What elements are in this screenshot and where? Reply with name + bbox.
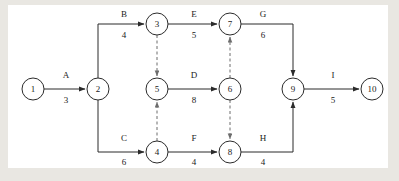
activity-label-B: B (121, 9, 127, 19)
node-label-1: 1 (31, 84, 36, 94)
activity-duration-F: 4 (192, 157, 197, 167)
activity-label-G: G (260, 9, 267, 19)
node-label-3: 3 (155, 19, 160, 29)
diagram-page: 1 2 3 4 5 6 7 8 9 10 A 3 B 4 C 6 D 8 E 5… (0, 0, 399, 181)
activity-duration-A: 3 (64, 95, 69, 105)
activity-label-C: C (121, 133, 127, 143)
activity-label-H: H (260, 133, 267, 143)
activity-duration-D: 8 (192, 95, 197, 105)
node-label-9: 9 (291, 84, 296, 94)
activity-duration-E: 5 (192, 30, 197, 40)
activity-label-E: E (191, 9, 197, 19)
edge-G-7-to-9 (241, 24, 293, 76)
network-diagram-svg: 1 2 3 4 5 6 7 8 9 10 A 3 B 4 C 6 D 8 E 5… (0, 0, 399, 181)
node-label-4: 4 (155, 147, 160, 157)
activity-duration-H: 4 (261, 157, 266, 167)
activity-label-F: F (191, 133, 196, 143)
activity-duration-C: 6 (122, 157, 127, 167)
activity-duration-I: 5 (331, 95, 336, 105)
edge-H-8-to-9 (241, 102, 293, 152)
node-label-7: 7 (228, 19, 233, 29)
node-layer: 1 2 3 4 5 6 7 8 9 10 (22, 13, 383, 163)
activity-label-A: A (63, 70, 70, 80)
node-label-2: 2 (96, 84, 101, 94)
node-label-10: 10 (368, 84, 378, 94)
edge-C-2-to-4 (98, 100, 144, 152)
activity-label-I: I (332, 70, 335, 80)
activity-label-D: D (191, 70, 198, 80)
activity-duration-G: 6 (261, 30, 266, 40)
node-label-6: 6 (228, 84, 233, 94)
activity-duration-B: 4 (122, 30, 127, 40)
node-label-8: 8 (228, 147, 233, 157)
node-label-5: 5 (155, 84, 160, 94)
